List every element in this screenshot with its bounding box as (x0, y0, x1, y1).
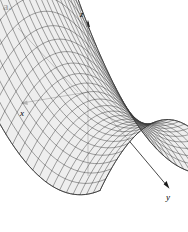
x-axis-label: x (19, 108, 24, 118)
y-axis-arrowhead (164, 181, 170, 189)
z-axis-label: z (79, 9, 84, 19)
saddle-surface-plot: z x y (0, 0, 188, 232)
y-axis-label: y (165, 192, 170, 202)
surface-mesh-group (0, 0, 188, 195)
figure-container: a. z x y (0, 0, 188, 232)
